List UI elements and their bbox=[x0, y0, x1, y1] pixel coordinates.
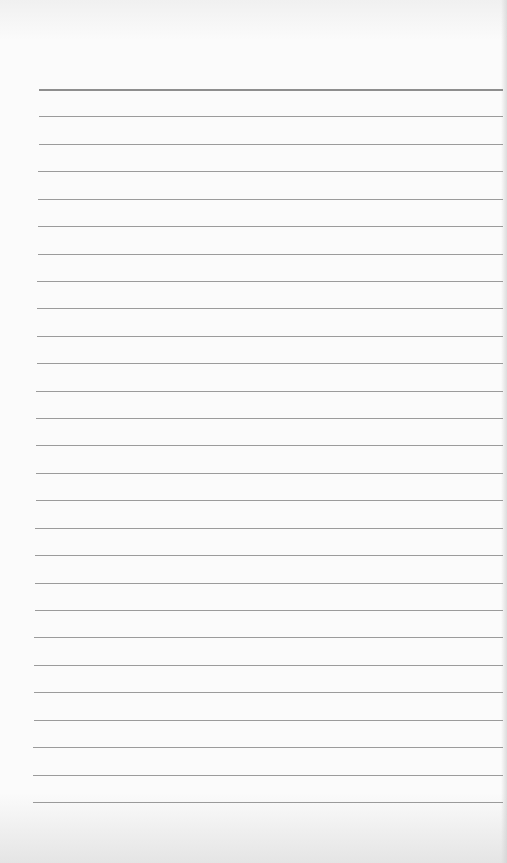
ruled-line bbox=[35, 610, 503, 611]
ruled-line bbox=[39, 116, 503, 117]
ruled-line bbox=[33, 747, 503, 748]
ruled-line bbox=[35, 583, 503, 584]
ruled-line bbox=[34, 692, 503, 693]
lined-paper-sheet bbox=[0, 0, 507, 863]
ruled-line bbox=[33, 802, 503, 803]
ruled-line bbox=[35, 528, 503, 529]
ruled-line bbox=[34, 637, 503, 638]
ruled-line bbox=[36, 391, 503, 392]
ruled-line bbox=[39, 89, 503, 91]
ruled-line bbox=[36, 445, 503, 446]
ruled-line bbox=[38, 254, 503, 255]
ruled-line bbox=[36, 500, 503, 501]
ruled-line bbox=[38, 226, 503, 227]
ruled-line bbox=[34, 665, 503, 666]
ruled-line bbox=[35, 555, 503, 556]
ruled-line bbox=[38, 171, 503, 172]
ruled-line bbox=[38, 199, 503, 200]
ruled-line bbox=[36, 418, 503, 419]
ruled-line bbox=[36, 473, 503, 474]
ruled-line bbox=[37, 363, 503, 364]
ruled-line bbox=[37, 308, 503, 309]
ruled-line bbox=[37, 281, 503, 282]
ruled-line bbox=[34, 720, 503, 721]
ruled-line bbox=[33, 775, 503, 776]
ruled-line bbox=[39, 144, 503, 145]
ruled-line bbox=[37, 336, 503, 337]
